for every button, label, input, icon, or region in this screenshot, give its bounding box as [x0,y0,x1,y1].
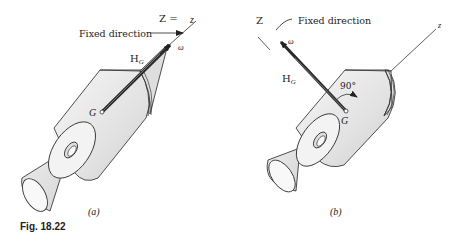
momentum-vector-b [281,42,346,111]
z-axis-label-b: Z [256,15,263,26]
g-label-a: G [89,107,96,118]
hg-label-a: HG [130,53,144,66]
z-body-axis-label-b: z [437,21,442,30]
panel-a: Z = z Fixed direction HG ω G (a) [17,13,196,218]
panel-b: Z z Fixed direction HG ω 90° G (b) [256,15,442,218]
fixed-direction-label-b: Fixed direction [298,15,371,26]
omega-label-a: ω [178,43,184,52]
mass-center-a [100,110,104,114]
figure-canvas: Z = z Fixed direction HG ω G (a) [0,0,459,241]
hg-label-b: HG [282,73,296,86]
angle-label-b: 90° [340,81,356,91]
fixed-direction-pointer-b [276,19,292,30]
panel-a-label: (a) [88,206,100,218]
cylinder-body-a [39,70,150,187]
mass-center-b [344,109,348,113]
z-axis-label-a: Z = [159,13,178,24]
figure-caption: Fig. 18.22 [20,221,66,232]
z-axis-line-b [391,29,436,71]
g-label-b: G [341,115,348,126]
nozzle-b [263,148,300,196]
omega-label-b: ω [288,37,294,46]
z-body-axis-label-a: z [189,14,194,25]
fixed-direction-label-a: Fixed direction [79,28,152,39]
panel-b-label: (b) [330,206,342,218]
svg-text:Z =: Z = [159,13,178,24]
fixed-z-axis-line-b [258,37,270,50]
